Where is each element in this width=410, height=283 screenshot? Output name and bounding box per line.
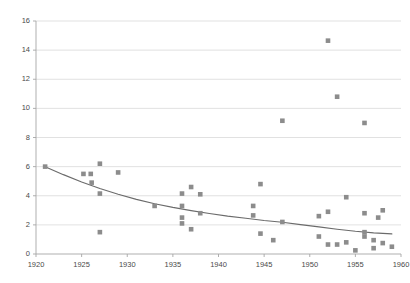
x-axis-tick-label: 1920	[19, 260, 53, 269]
y-axis-tick-label: 6	[4, 163, 30, 171]
data-point-marker	[271, 238, 276, 243]
trendline	[45, 167, 392, 234]
data-point-marker	[116, 170, 121, 175]
y-axis-tick-label: 0	[4, 250, 30, 258]
data-point-marker	[180, 204, 185, 209]
data-point-marker	[152, 204, 157, 209]
y-axis-tick-label: 10	[4, 104, 30, 112]
data-point-marker	[251, 213, 256, 218]
data-point-marker	[353, 248, 358, 253]
data-point-marker	[89, 180, 94, 185]
data-point-marker	[344, 240, 349, 245]
y-axis-tick-label: 12	[4, 75, 30, 83]
data-point-marker	[390, 244, 395, 249]
data-point-marker	[280, 118, 285, 123]
data-point-marker	[376, 215, 381, 220]
data-point-marker	[362, 211, 367, 216]
data-point-marker	[326, 209, 331, 214]
x-axis-tick-label: 1925	[65, 260, 99, 269]
data-point-marker	[362, 234, 367, 239]
data-point-marker	[335, 94, 340, 99]
x-axis-tick-label: 1930	[110, 260, 144, 269]
data-point-marker	[180, 221, 185, 226]
data-point-marker	[81, 172, 86, 177]
data-point-marker	[362, 121, 367, 126]
data-points	[43, 38, 394, 252]
x-axis-tick-label: 1935	[156, 260, 190, 269]
data-point-marker	[180, 191, 185, 196]
plot-area	[0, 0, 410, 283]
data-point-marker	[88, 172, 93, 177]
data-point-marker	[371, 246, 376, 251]
data-point-marker	[43, 164, 48, 169]
data-point-marker	[326, 242, 331, 247]
x-axis-tick-label: 1950	[293, 260, 327, 269]
data-point-marker	[362, 230, 367, 235]
y-axis-tick-label: 4	[4, 192, 30, 200]
y-axis-tick-label: 16	[4, 17, 30, 25]
data-point-marker	[258, 182, 263, 187]
data-point-marker	[251, 204, 256, 209]
data-point-marker	[317, 234, 322, 239]
data-point-marker	[98, 230, 103, 235]
data-point-marker	[98, 191, 103, 196]
data-point-marker	[198, 192, 203, 197]
data-point-marker	[317, 214, 322, 219]
y-axis-tick-label: 2	[4, 221, 30, 229]
data-point-marker	[189, 227, 194, 232]
data-point-marker	[326, 38, 331, 43]
data-point-marker	[335, 242, 340, 247]
data-point-marker	[189, 185, 194, 190]
y-axis-tick-label: 14	[4, 46, 30, 54]
x-axis-tick-label: 1955	[338, 260, 372, 269]
x-axis-tick-label: 1945	[247, 260, 281, 269]
data-point-marker	[344, 195, 349, 200]
data-point-marker	[371, 238, 376, 243]
x-axis-tick-label: 1940	[202, 260, 236, 269]
data-point-marker	[98, 161, 103, 166]
data-point-marker	[180, 215, 185, 220]
x-axis-tick-label: 1960	[384, 260, 410, 269]
gridlines	[36, 21, 401, 225]
data-point-marker	[280, 220, 285, 225]
data-point-marker	[258, 231, 263, 236]
y-axis-tick-label: 8	[4, 134, 30, 142]
scatter-chart: 0246810121416192019251930193519401945195…	[0, 0, 410, 283]
data-point-marker	[380, 208, 385, 213]
data-point-marker	[380, 241, 385, 246]
data-point-marker	[198, 211, 203, 216]
